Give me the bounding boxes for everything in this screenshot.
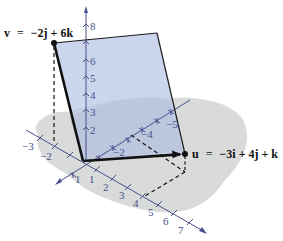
z-tick-6: 6: [90, 55, 96, 67]
x-tick-4: 4: [133, 197, 139, 209]
v-label-rhs: −2j + 6k: [31, 26, 74, 40]
z-tick-8: 8: [90, 20, 96, 32]
u-label-equals: =: [206, 147, 213, 161]
z-tick-4: 4: [90, 89, 96, 101]
x-tick-7: 7: [178, 224, 184, 236]
vector-v-label: v = −2j + 6k: [4, 26, 73, 40]
z-tick-5: 5: [90, 72, 96, 84]
x-tick-1: 1: [89, 173, 95, 185]
v-label-equals: =: [17, 26, 24, 40]
x-tick-5: 5: [148, 206, 154, 218]
y-tick-neg2: −2: [113, 146, 125, 158]
x-tick-3: 3: [119, 189, 125, 201]
y-tick-neg4: −4: [141, 128, 153, 140]
u-label-rhs: −3i + 4j + k: [219, 147, 278, 161]
x-tick-neg3: −3: [22, 140, 34, 152]
x-tick-2: 2: [103, 181, 109, 193]
vector-u-tip-dot: [182, 151, 188, 157]
y-tick-neg5: −5: [166, 118, 178, 130]
z-tick-2: 2: [90, 124, 96, 136]
z-tick-3: 3: [90, 106, 96, 118]
u-label-symbol: u: [192, 147, 199, 161]
v-label-symbol: v: [4, 26, 10, 40]
vector-u-label: u = −3i + 4j + k: [192, 147, 278, 161]
parallelogram-diagram: 2 3 4 5 6 8 −3 −2 1 2 3 4 5 6 7: [0, 0, 283, 241]
figure: 2 3 4 5 6 8 −3 −2 1 2 3 4 5 6 7: [0, 0, 283, 241]
y-tick-1: 1: [75, 173, 81, 185]
vector-v-tip-dot: [51, 40, 57, 46]
x-tick-neg2: −2: [40, 150, 52, 162]
x-tick-6: 6: [163, 215, 169, 227]
